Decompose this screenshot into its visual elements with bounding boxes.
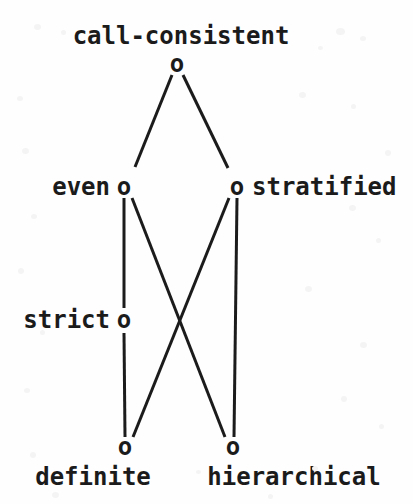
node-label-strict: strict [23, 308, 110, 332]
lattice-diagram-figure: ocall-consistentoevenostratifiedostricto… [0, 0, 413, 504]
node-label-definite: definite [35, 465, 151, 489]
node-even[interactable]: o [117, 175, 131, 199]
node-call-consistent[interactable]: o [170, 52, 184, 76]
edge-definite--strict [124, 333, 125, 437]
node-stratified[interactable]: o [230, 175, 244, 199]
edge-hierarchical--stratified [234, 198, 237, 437]
edge-even--call-consistent [135, 75, 172, 167]
node-definite[interactable]: o [118, 435, 132, 459]
node-label-stratified: stratified [252, 175, 397, 199]
node-hierarchical[interactable]: o [226, 435, 240, 459]
node-label-even: even [52, 175, 110, 199]
edge-layer [0, 0, 413, 504]
edge-stratified--call-consistent [183, 75, 228, 168]
node-strict[interactable]: o [117, 308, 131, 332]
node-label-hierarchical: hierarchical [207, 465, 380, 489]
node-label-call-consistent: call-consistent [73, 24, 290, 48]
